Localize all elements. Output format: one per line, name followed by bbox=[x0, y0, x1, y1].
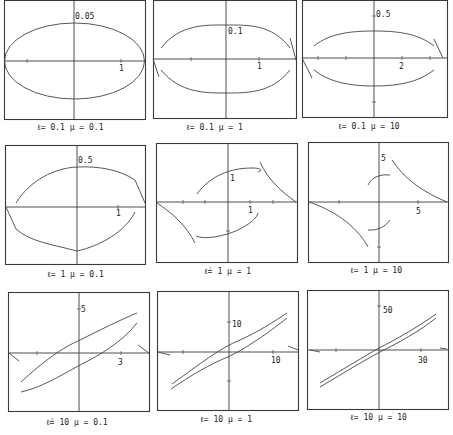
panel-frame bbox=[309, 143, 449, 263]
panel-caption: ℓ≟ 1 μ = 1 bbox=[204, 267, 251, 276]
separatrix-left bbox=[158, 352, 170, 355]
upper-arc bbox=[197, 168, 261, 194]
panel-l1-mu1: 1 1 ℓ≟ 1 μ = 1 bbox=[156, 143, 298, 276]
phase-portrait-grid: 0.05 1 ℓ= 0.1 μ = 0.1 0.1 1 ℓ= 0.1 μ = 1… bbox=[0, 0, 453, 435]
panel-l1-mu10: 5 5 ℓ= 1 μ = 10 bbox=[308, 142, 449, 275]
upper-arc bbox=[16, 167, 145, 203]
y-tick-label: 1 bbox=[230, 174, 235, 183]
panel-frame bbox=[154, 1, 297, 119]
separatrix-right bbox=[290, 38, 296, 60]
x-tick-label: 1 bbox=[119, 64, 124, 73]
separatrix-left bbox=[9, 353, 19, 361]
upper-arc bbox=[320, 314, 436, 383]
panel-l0.1-mu1: 0.1 1 ℓ= 0.1 μ = 1 bbox=[153, 0, 297, 132]
y-tick-label: 10 bbox=[232, 320, 242, 329]
panel-frame bbox=[303, 1, 448, 118]
lower-arc bbox=[161, 70, 290, 93]
panel-frame bbox=[157, 144, 298, 263]
x-tick-label: 3 bbox=[118, 358, 123, 367]
lower-left-branch bbox=[309, 202, 368, 247]
panel-caption: ℓ= 0.1 μ = 10 bbox=[338, 122, 400, 131]
panel-l10-mu1: 10 10 ℓ= 10 μ = 1 bbox=[157, 291, 299, 424]
separatrix-right bbox=[138, 345, 149, 353]
panel-l0.1-mu0.1: 0.05 1 ℓ= 0.1 μ = 0.1 bbox=[4, 0, 146, 132]
x-tick-label: 5 bbox=[416, 207, 421, 216]
panel-caption: ℓ= 0.1 μ = 1 bbox=[186, 123, 243, 132]
x-tick-label: 30 bbox=[418, 356, 428, 365]
separatrix-left bbox=[302, 58, 312, 78]
x-tick-label: 2 bbox=[399, 62, 404, 71]
upper-right-branch bbox=[392, 160, 447, 202]
panel-caption: ℓ= 1 μ = 0.1 bbox=[47, 270, 104, 279]
y-tick-label: 50 bbox=[383, 306, 393, 315]
panel-l10-mu0.1: 5 3 ℓ≟ 10 μ = 0.1 bbox=[8, 292, 150, 427]
y-tick-label: 5 bbox=[81, 305, 86, 314]
x-tick-label: 1 bbox=[248, 206, 253, 215]
x-tick-label: 1 bbox=[116, 209, 121, 218]
upper-arc bbox=[161, 25, 290, 48]
panel-caption: ℓ= 1 μ = 10 bbox=[350, 266, 402, 275]
panel-frame bbox=[158, 292, 299, 411]
y-tick-label: 0.5 bbox=[376, 10, 391, 19]
upper-arc bbox=[172, 313, 287, 384]
panel-l10-mu10: 50 30 ℓ= 10 μ = 10 bbox=[307, 290, 449, 422]
y-tick-label: 0.5 bbox=[78, 156, 93, 165]
x-tick-label: 1 bbox=[257, 62, 262, 71]
panel-caption: ℓ≟ 10 μ = 0.1 bbox=[46, 418, 108, 427]
y-tick-label: 0.05 bbox=[75, 12, 94, 21]
panel-caption: ℓ= 10 μ = 10 bbox=[350, 413, 407, 422]
separatrix-right bbox=[434, 39, 443, 58]
separatrix-right bbox=[288, 346, 298, 350]
panel-caption: ℓ= 10 μ = 1 bbox=[200, 415, 252, 424]
panel-l1-mu0.1: 0.5 1 ℓ= 1 μ = 0.1 bbox=[5, 145, 146, 279]
separatrix-right bbox=[440, 348, 447, 349]
lower-arc bbox=[320, 318, 436, 387]
panel-l0.1-mu10: 0.5 2 ℓ= 0.1 μ = 10 bbox=[302, 0, 448, 131]
y-tick-label: 0.1 bbox=[228, 27, 243, 36]
upper-right-branch bbox=[260, 162, 296, 202]
lower-arc bbox=[196, 213, 258, 238]
panel-caption: ℓ= 0.1 μ = 0.1 bbox=[37, 123, 104, 132]
panel-frame bbox=[6, 146, 146, 265]
x-tick-label: 10 bbox=[271, 356, 281, 365]
lower-left-branch bbox=[157, 203, 195, 243]
y-tick-label: 5 bbox=[381, 154, 386, 163]
